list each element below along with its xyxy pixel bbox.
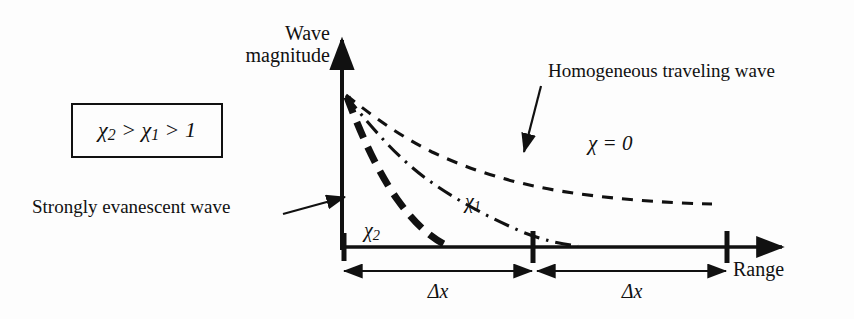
chi-two-curve-label: χ2	[364, 219, 380, 243]
curve-chi-two	[347, 97, 444, 244]
evanescent-callout-arrow	[283, 197, 345, 214]
inequality-chi1-subscript: 1	[151, 126, 159, 143]
y-axis-title-line1: Wave	[212, 22, 330, 44]
chi-one-curve-label: χ1	[465, 190, 481, 214]
delta-x-second-label: Δx	[592, 280, 672, 302]
x-axis-title: Range	[733, 258, 784, 280]
inequality-chi2: χ	[98, 117, 108, 142]
chi-one-base: χ	[465, 190, 474, 212]
chi-two-subscript: 2	[373, 227, 380, 243]
inequality-text: χ2 > χ1 > 1	[98, 117, 196, 144]
inequality-chi2-subscript: 2	[108, 126, 116, 143]
y-axis-title: Wave magnitude	[212, 22, 330, 67]
wave-magnitude-decay-figure: Wave magnitude Range χ2 > χ1 > 1 Homogen…	[0, 0, 854, 319]
y-axis-title-line2: magnitude	[212, 44, 330, 66]
chi-one-subscript: 1	[474, 198, 481, 214]
chi-two-base: χ	[364, 219, 373, 241]
chi-zero-annotation: χ = 0	[588, 132, 632, 156]
homogeneous-traveling-wave-label: Homogeneous traveling wave	[548, 60, 775, 81]
delta-x-first-label: Δx	[398, 280, 478, 302]
inequality-box: χ2 > χ1 > 1	[71, 103, 223, 158]
figure-canvas	[0, 0, 854, 319]
inequality-one: 1	[185, 117, 196, 142]
homogeneous-callout-arrow	[524, 86, 541, 152]
inequality-gt-2: >	[165, 117, 180, 142]
inequality-gt-1: >	[121, 117, 136, 142]
inequality-chi1: χ	[142, 117, 152, 142]
strongly-evanescent-wave-label: Strongly evanescent wave	[32, 196, 230, 217]
curve-chi-zero	[346, 95, 712, 204]
